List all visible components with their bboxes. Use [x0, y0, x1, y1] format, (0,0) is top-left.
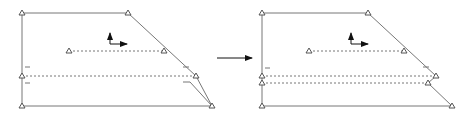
- triangle-marker-icon: [19, 73, 25, 78]
- triangle-marker-icon: [66, 48, 72, 53]
- panel-before: [19, 10, 215, 108]
- diagram-canvas: [0, 0, 471, 119]
- polygon-outline: [22, 13, 212, 106]
- notch-edge: [183, 82, 212, 106]
- triangle-marker-icon: [259, 73, 265, 78]
- polygon-outline: [262, 13, 452, 106]
- triangle-marker-icon: [259, 80, 265, 85]
- panel-after: [259, 10, 455, 108]
- triangle-marker-icon: [306, 48, 312, 53]
